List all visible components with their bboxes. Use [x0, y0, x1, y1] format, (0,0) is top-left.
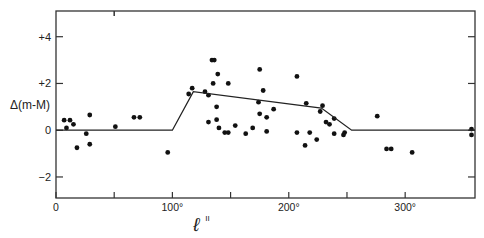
y-axis-label: Δ(m-M) — [10, 98, 50, 112]
data-point — [64, 125, 69, 130]
data-point — [271, 107, 276, 112]
data-point — [327, 122, 332, 127]
data-point — [307, 130, 312, 135]
y-tick-label: 0 — [45, 124, 51, 136]
data-point — [257, 111, 262, 116]
data-point — [243, 131, 248, 136]
data-point — [314, 137, 319, 142]
data-point — [68, 118, 73, 123]
scatter-plot: +4+20−20100°200°300°Δ(m-M)ℓII — [0, 0, 484, 238]
y-tick-label: +4 — [38, 31, 51, 43]
data-point — [295, 74, 300, 79]
data-point — [137, 115, 142, 120]
data-point — [469, 132, 474, 137]
data-point — [212, 58, 217, 63]
data-point — [332, 131, 337, 136]
x-axis-label-superscript: II — [205, 214, 209, 223]
data-point — [295, 130, 300, 135]
data-point — [264, 129, 269, 134]
data-point — [87, 142, 92, 147]
data-point — [87, 113, 92, 118]
data-point — [257, 67, 262, 72]
chart: +4+20−20100°200°300°Δ(m-M)ℓII — [0, 0, 484, 238]
x-tick-label: 100° — [162, 201, 184, 213]
data-point — [214, 117, 219, 122]
x-tick-label: 0 — [53, 201, 59, 213]
data-point — [233, 123, 238, 128]
data-point — [303, 143, 308, 148]
y-tick-label: +2 — [38, 77, 51, 89]
data-point — [389, 147, 394, 152]
y-tick-label: −2 — [38, 171, 51, 183]
data-point — [75, 145, 80, 150]
data-point — [113, 124, 118, 129]
data-point — [206, 120, 211, 125]
data-point — [211, 81, 216, 86]
data-point — [264, 115, 269, 120]
data-point — [217, 125, 222, 130]
data-point — [84, 131, 89, 136]
data-point — [226, 81, 231, 86]
model-line — [56, 92, 475, 131]
x-tick-label: 300° — [394, 201, 416, 213]
data-point — [165, 150, 170, 155]
data-point — [384, 147, 389, 152]
x-axis-label: ℓ — [192, 214, 200, 235]
data-point — [304, 101, 309, 106]
data-point — [190, 86, 195, 91]
data-point — [186, 92, 191, 97]
data-point — [250, 125, 255, 130]
data-point — [261, 88, 266, 93]
data-point — [214, 104, 219, 109]
data-point — [226, 130, 231, 135]
data-point — [341, 132, 346, 137]
data-point — [375, 114, 380, 119]
data-point — [71, 122, 76, 127]
data-point — [410, 150, 415, 155]
data-point — [62, 118, 67, 123]
data-point — [318, 109, 323, 114]
x-tick-label: 200° — [278, 201, 300, 213]
data-point — [132, 115, 137, 120]
data-point — [215, 72, 220, 77]
plot-frame — [56, 11, 475, 198]
